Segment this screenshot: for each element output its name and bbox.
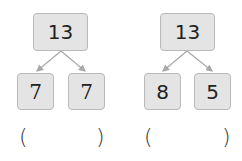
parent-number: 13 [48,20,73,44]
answer-open-paren-1: ( [19,124,28,149]
parent-number: 13 [175,20,200,44]
child-number-box-1b: 7 [68,73,105,110]
child-number: 7 [80,80,93,104]
answer-open-paren-2: ( [144,124,153,149]
child-number-box-2b: 5 [194,73,231,110]
child-number: 5 [206,80,219,104]
child-number: 8 [156,80,169,104]
number-bond-worksheet: 13 7 7 ( ) 13 8 5 ( ) [0,0,242,161]
child-number: 7 [29,80,42,104]
answer-close-paren-2: ) [222,124,231,149]
child-number-box-2a: 8 [144,73,181,110]
answer-blank-2[interactable] [156,126,218,152]
child-number-box-1a: 7 [17,73,54,110]
answer-close-paren-1: ) [96,124,105,149]
parent-number-box-2: 13 [160,13,215,51]
answer-blank-1[interactable] [30,126,92,152]
parent-number-box-1: 13 [33,13,88,51]
